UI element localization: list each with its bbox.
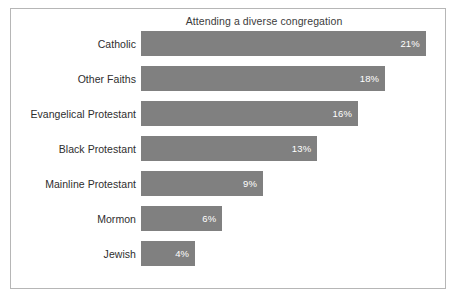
category-label: Mainline Protestant [11, 178, 141, 190]
chart-figure: Attending a diverse congregation Catholi… [10, 8, 446, 289]
bar[interactable]: 16% [141, 101, 358, 126]
bar-track: 4% [141, 241, 445, 266]
chart-plot-area: Catholic 21% Other Faiths 18% Evangelica… [11, 31, 445, 288]
bar-value-label: 13% [292, 143, 312, 154]
bar[interactable]: 18% [141, 66, 385, 91]
bar-value-label: 9% [243, 178, 257, 189]
bar-row[interactable]: Jewish 4% [11, 241, 445, 266]
bar[interactable]: 13% [141, 136, 317, 161]
bar-track: 18% [141, 66, 445, 91]
bar[interactable]: 9% [141, 171, 263, 196]
bar[interactable]: 4% [141, 241, 195, 266]
bar-row[interactable]: Evangelical Protestant 16% [11, 101, 445, 126]
category-label: Jewish [11, 248, 141, 260]
bar[interactable]: 21% [141, 31, 426, 56]
bar-row[interactable]: Catholic 21% [11, 31, 445, 56]
bar-track: 16% [141, 101, 445, 126]
bar-row[interactable]: Other Faiths 18% [11, 66, 445, 91]
chart-title: Attending a diverse congregation [11, 15, 445, 27]
category-label: Evangelical Protestant [11, 108, 141, 120]
bar-value-label: 6% [202, 213, 216, 224]
bar-row[interactable]: Black Protestant 13% [11, 136, 445, 161]
bar-value-label: 16% [333, 108, 353, 119]
category-label: Other Faiths [11, 73, 141, 85]
bar-track: 13% [141, 136, 445, 161]
bar-row[interactable]: Mormon 6% [11, 206, 445, 231]
bar[interactable]: 6% [141, 206, 222, 231]
bar-value-label: 21% [400, 38, 420, 49]
category-label: Catholic [11, 38, 141, 50]
bar-track: 21% [141, 31, 445, 56]
bar-row[interactable]: Mainline Protestant 9% [11, 171, 445, 196]
bar-track: 6% [141, 206, 445, 231]
category-label: Mormon [11, 213, 141, 225]
bar-value-label: 4% [175, 248, 189, 259]
bar-value-label: 18% [360, 73, 380, 84]
category-label: Black Protestant [11, 143, 141, 155]
bar-track: 9% [141, 171, 445, 196]
